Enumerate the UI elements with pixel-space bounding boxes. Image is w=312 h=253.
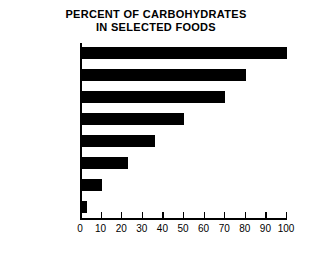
x-tick-mark xyxy=(224,212,225,218)
x-tick-mark xyxy=(142,212,143,218)
bar xyxy=(81,69,246,81)
x-tick-mark xyxy=(183,212,184,218)
bar xyxy=(81,157,128,169)
bar xyxy=(81,47,287,59)
bar xyxy=(81,113,184,125)
x-tick-mark xyxy=(121,212,122,218)
x-tick-mark xyxy=(265,212,266,218)
x-tick-mark xyxy=(80,212,81,218)
bar xyxy=(81,201,87,213)
bar xyxy=(81,91,225,103)
x-tick-mark xyxy=(245,212,246,218)
x-tick-mark xyxy=(286,212,287,218)
bar xyxy=(81,135,155,147)
x-tick-label: 100 xyxy=(271,223,301,235)
x-tick-mark xyxy=(204,212,205,218)
x-tick-mark xyxy=(101,212,102,218)
chart-figure: PERCENT OF CARBOHYDRATES IN SELECTED FOO… xyxy=(0,0,312,253)
plot-area: SugarMarshmallowsCookiesWhite breadPanca… xyxy=(0,0,312,253)
x-axis-line xyxy=(80,218,287,220)
x-tick-mark xyxy=(162,212,163,218)
bar xyxy=(81,179,102,191)
